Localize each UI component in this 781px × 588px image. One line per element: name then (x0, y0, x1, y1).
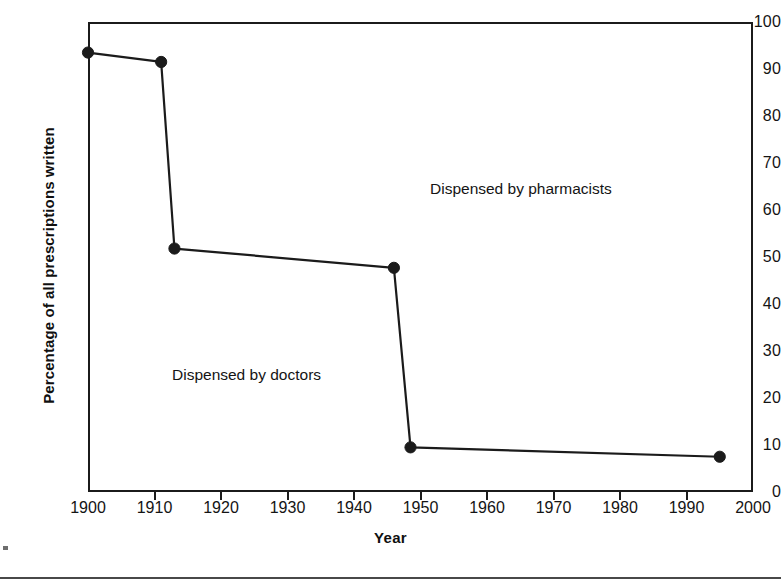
x-tick-label: 1990 (652, 500, 722, 516)
x-tick-mark (553, 492, 555, 500)
x-tick-label: 1950 (386, 500, 456, 516)
x-tick-mark (220, 492, 222, 500)
x-tick-label: 1910 (120, 500, 190, 516)
x-tick-label: 1940 (319, 500, 389, 516)
annotation-dispensed-by-doctors: Dispensed by doctors (172, 367, 321, 383)
x-tick-mark (353, 492, 355, 500)
x-tick-mark (420, 492, 422, 500)
annotation-dispensed-by-pharmacists: Dispensed by pharmacists (430, 181, 612, 197)
plot-area (88, 22, 753, 492)
x-tick-label: 1970 (519, 500, 589, 516)
chart-figure: 100 90 80 70 60 50 40 30 20 10 0 1900 19… (0, 0, 781, 588)
x-tick-label: 1960 (452, 500, 522, 516)
x-tick-label: 1980 (585, 500, 655, 516)
x-tick-mark (154, 492, 156, 500)
x-axis-title: Year (0, 529, 781, 546)
x-tick-mark (686, 492, 688, 500)
x-tick-label: 2000 (718, 500, 781, 516)
x-tick-label: 1930 (253, 500, 323, 516)
x-tick-mark (287, 492, 289, 500)
page-divider-rule (0, 577, 781, 579)
x-tick-label: 1920 (186, 500, 256, 516)
x-tick-mark (486, 492, 488, 500)
x-tick-label: 1900 (53, 500, 123, 516)
scan-artifact-speck (3, 546, 8, 550)
y-axis-title: Percentage of all prescriptions written (40, 66, 57, 466)
x-tick-mark (619, 492, 621, 500)
